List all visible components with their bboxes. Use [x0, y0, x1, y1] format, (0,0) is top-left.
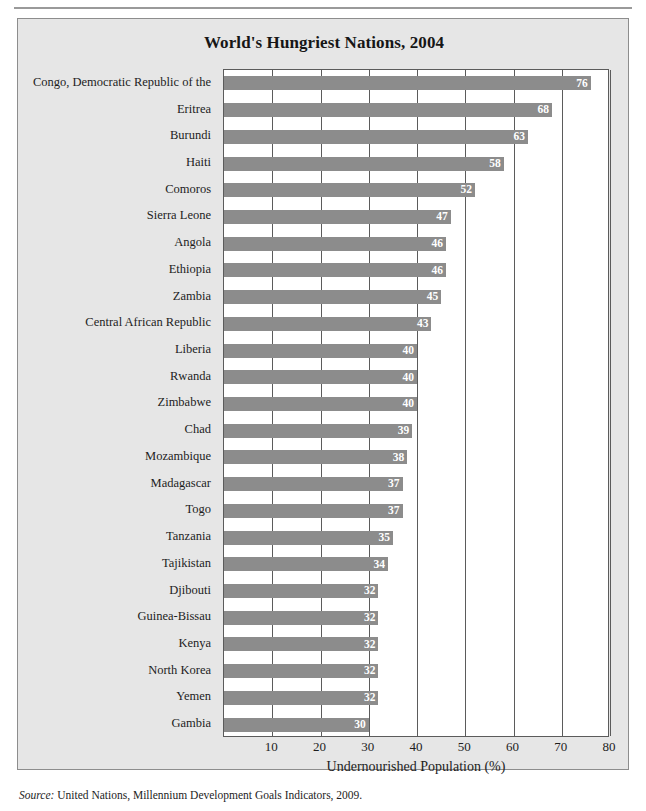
category-label: Kenya — [178, 636, 211, 651]
category-label-row: Chad — [18, 416, 217, 443]
category-label: Liberia — [175, 342, 211, 357]
bar-value-label: 35 — [378, 532, 390, 544]
category-label: Tanzania — [166, 529, 211, 544]
bar[interactable]: 37 — [224, 504, 403, 518]
x-tick-label-30: 30 — [361, 739, 374, 755]
bar-row: 43 — [224, 310, 608, 337]
bar-value-label: 32 — [364, 665, 376, 677]
category-label: Comoros — [165, 182, 211, 197]
category-label-row: Ethiopia — [18, 256, 217, 283]
bar-row: 52 — [224, 177, 608, 204]
bar[interactable]: 46 — [224, 263, 446, 277]
bar[interactable]: 32 — [224, 584, 378, 598]
bar-value-label: 40 — [403, 398, 415, 410]
category-label-row: Tajikistan — [18, 550, 217, 577]
bar-row: 32 — [224, 658, 608, 685]
x-tick-label-50: 50 — [458, 739, 471, 755]
bar-row: 47 — [224, 204, 608, 231]
bar[interactable]: 43 — [224, 317, 431, 331]
bar-row: 68 — [224, 97, 608, 124]
bar[interactable]: 47 — [224, 210, 451, 224]
category-label: Haiti — [186, 155, 211, 170]
bar-value-label: 39 — [398, 425, 410, 437]
category-label: Central African Republic — [85, 315, 211, 330]
bar-value-label: 38 — [393, 452, 405, 464]
bar-row: 40 — [224, 337, 608, 364]
category-label-row: Togo — [18, 497, 217, 524]
category-label-row: Tanzania — [18, 523, 217, 550]
category-label: Angola — [174, 235, 211, 250]
category-label-row: Liberia — [18, 336, 217, 363]
category-label-row: Zimbabwe — [18, 390, 217, 417]
bar[interactable]: 45 — [224, 290, 441, 304]
category-axis-labels: Congo, Democratic Republic of theEritrea… — [18, 69, 217, 737]
x-tick-label-70: 70 — [554, 739, 567, 755]
bar-value-label: 30 — [354, 719, 366, 731]
bar-value-label: 34 — [374, 559, 386, 571]
bar-value-label: 46 — [431, 265, 443, 277]
category-label-row: Rwanda — [18, 363, 217, 390]
category-label: Tajikistan — [162, 556, 211, 571]
bar[interactable]: 35 — [224, 531, 393, 545]
bar[interactable]: 32 — [224, 637, 378, 651]
category-label: Burundi — [170, 128, 211, 143]
bar[interactable]: 68 — [224, 103, 552, 117]
x-tick-label-20: 20 — [313, 739, 326, 755]
x-axis-title: Undernourished Population (%) — [223, 759, 609, 775]
bar-row: 35 — [224, 524, 608, 551]
bar[interactable]: 40 — [224, 344, 417, 358]
category-label-row: Angola — [18, 229, 217, 256]
bar[interactable]: 52 — [224, 183, 475, 197]
figure-page: World's Hungriest Nations, 2004 Congo, D… — [0, 0, 646, 811]
category-label: Yemen — [176, 689, 211, 704]
bar-value-label: 47 — [436, 211, 448, 223]
bar[interactable]: 32 — [224, 611, 378, 625]
bar[interactable]: 40 — [224, 397, 417, 411]
bar-value-label: 45 — [427, 291, 439, 303]
category-label: Rwanda — [170, 369, 211, 384]
bar-row: 37 — [224, 471, 608, 498]
x-axis-tick-labels: 1020304050607080 — [223, 739, 609, 757]
bar-row: 40 — [224, 364, 608, 391]
chart-title: World's Hungriest Nations, 2004 — [18, 33, 630, 53]
bar-row: 32 — [224, 631, 608, 658]
category-label: Togo — [185, 502, 211, 517]
bar-value-label: 32 — [364, 612, 376, 624]
bar-value-label: 52 — [460, 184, 472, 196]
gridline-80 — [610, 70, 611, 736]
bar[interactable]: 38 — [224, 450, 407, 464]
category-label: Mozambique — [145, 449, 211, 464]
category-label-row: Sierra Leone — [18, 203, 217, 230]
category-label-row: Congo, Democratic Republic of the — [18, 69, 217, 96]
bar-value-label: 63 — [513, 131, 525, 143]
category-label: Madagascar — [151, 476, 211, 491]
source-text: United Nations, Millennium Development G… — [54, 789, 362, 801]
bar[interactable]: 76 — [224, 76, 591, 90]
bar[interactable]: 32 — [224, 664, 378, 678]
bar-row: 38 — [224, 444, 608, 471]
bar-row: 40 — [224, 391, 608, 418]
bar-row: 45 — [224, 284, 608, 311]
bar-value-label: 32 — [364, 585, 376, 597]
bar[interactable]: 46 — [224, 237, 446, 251]
bar-row: 32 — [224, 685, 608, 712]
bar[interactable]: 30 — [224, 718, 369, 732]
bar[interactable]: 37 — [224, 477, 403, 491]
bar[interactable]: 58 — [224, 157, 504, 171]
category-label: Chad — [185, 422, 211, 437]
bar-value-label: 40 — [403, 372, 415, 384]
bar-row: 63 — [224, 123, 608, 150]
category-label: Sierra Leone — [147, 208, 211, 223]
category-label-row: Haiti — [18, 149, 217, 176]
bar[interactable]: 63 — [224, 130, 528, 144]
bar[interactable]: 34 — [224, 557, 388, 571]
bar[interactable]: 32 — [224, 691, 378, 705]
bar[interactable]: 40 — [224, 370, 417, 384]
x-tick-label-10: 10 — [265, 739, 278, 755]
bar[interactable]: 39 — [224, 424, 412, 438]
bar-value-label: 37 — [388, 478, 400, 490]
x-tick-label-60: 60 — [506, 739, 519, 755]
category-label-row: Comoros — [18, 176, 217, 203]
bar-row: 34 — [224, 551, 608, 578]
bar-row: 76 — [224, 70, 608, 97]
